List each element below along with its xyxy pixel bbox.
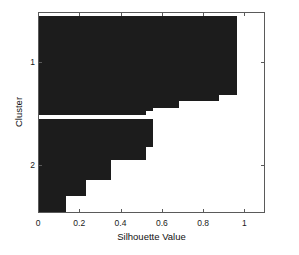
silhouette-bar xyxy=(39,196,66,213)
y-axis-tick-label: 2 xyxy=(30,160,35,170)
x-axis-label: Silhouette Value xyxy=(38,231,265,242)
x-axis-tick xyxy=(121,209,122,213)
silhouette-bar xyxy=(39,101,179,108)
x-axis-tick-label: 0.8 xyxy=(197,218,209,228)
x-axis-tick-label: 0.4 xyxy=(115,218,127,228)
x-axis-tick-top xyxy=(203,12,204,16)
x-axis-tick xyxy=(244,209,245,213)
silhouette-bar xyxy=(39,119,153,147)
silhouette-bar xyxy=(39,111,146,115)
x-axis-tick-top xyxy=(244,12,245,16)
x-axis-tick-label: 0 xyxy=(36,218,41,228)
x-axis-tick-label: 1 xyxy=(242,218,247,228)
silhouette-bar xyxy=(39,147,146,160)
x-axis-tick xyxy=(38,209,39,213)
y-axis-label: Cluster xyxy=(13,97,24,127)
silhouette-plot-figure: 00.20.40.60.8112 Silhouette Value Cluste… xyxy=(0,0,299,255)
x-axis-tick-top xyxy=(121,12,122,16)
silhouette-bar xyxy=(39,180,86,196)
x-axis-tick-top xyxy=(79,12,80,16)
y-axis-tick xyxy=(38,62,42,63)
y-axis-tick-right xyxy=(261,62,265,63)
x-axis-tick-label: 0.6 xyxy=(156,218,168,228)
silhouette-bars-layer xyxy=(39,13,264,212)
y-axis-tick xyxy=(38,165,42,166)
x-axis-tick-top xyxy=(38,12,39,16)
y-axis-tick-right xyxy=(261,165,265,166)
silhouette-bar xyxy=(39,160,111,180)
x-axis-tick xyxy=(162,209,163,213)
x-axis-tick-label: 0.2 xyxy=(73,218,85,228)
y-axis-tick-label: 1 xyxy=(30,57,35,67)
plot-area xyxy=(38,12,265,213)
x-axis-tick xyxy=(79,209,80,213)
x-axis-tick xyxy=(203,209,204,213)
silhouette-bar xyxy=(39,16,237,95)
x-axis-tick-top xyxy=(162,12,163,16)
